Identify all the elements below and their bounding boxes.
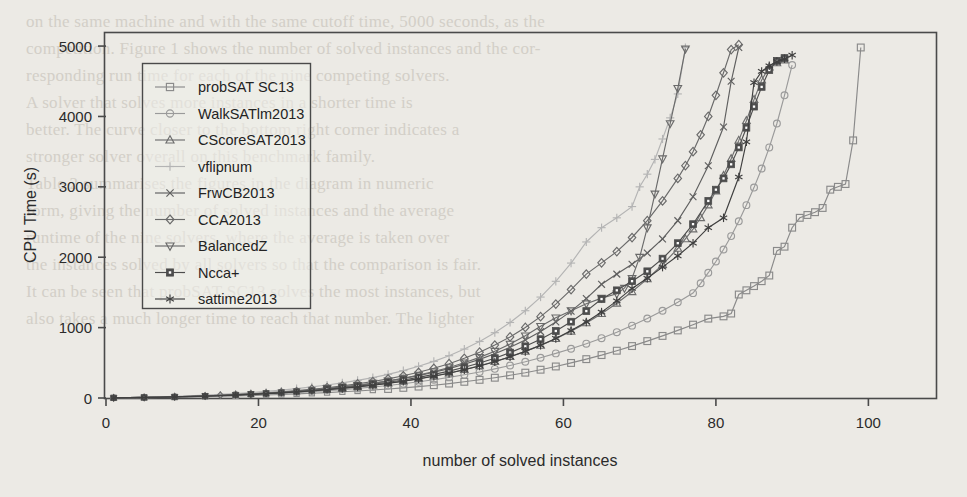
data-marker-square-filled <box>735 144 742 151</box>
x-tick-label: 80 <box>708 414 725 431</box>
data-marker-square-filled <box>720 175 727 182</box>
data-marker-square-filled <box>705 198 712 205</box>
data-marker-cross <box>629 261 636 268</box>
data-marker-plus <box>460 345 468 353</box>
data-marker-circle <box>789 62 796 69</box>
data-marker-plus <box>628 202 636 210</box>
data-marker-plus <box>636 183 644 191</box>
y-tick-label: 5000 <box>59 38 92 55</box>
y-tick-label: 4000 <box>59 108 92 125</box>
data-marker-square-filled <box>552 328 559 335</box>
legend-item-label: CCA2013 <box>198 212 261 228</box>
legend-item-label: probSAT SC13 <box>198 79 294 95</box>
x-tick-label: 40 <box>403 414 420 431</box>
data-marker-square-filled <box>728 161 735 168</box>
x-axis-label: number of solved instances <box>423 452 618 469</box>
legend-item-label: BalancedZ <box>198 238 267 254</box>
data-marker-square-filled <box>690 221 697 228</box>
data-marker-square-filled <box>583 308 590 315</box>
data-marker-cross <box>659 236 666 243</box>
data-marker-asterisk <box>743 138 750 147</box>
data-marker-asterisk <box>788 51 795 60</box>
chart-legend: probSAT SC13WalkSATlm2013CScoreSAT2013vf… <box>143 64 311 309</box>
legend-item-label: sattime2013 <box>198 291 277 307</box>
data-marker-square-filled <box>713 186 720 193</box>
data-marker-plus <box>414 362 422 370</box>
data-marker-asterisk <box>735 173 742 182</box>
legend-item-label: CScoreSAT2013 <box>198 132 306 148</box>
data-marker-square-filled <box>166 269 173 276</box>
x-tick-label: 60 <box>555 414 572 431</box>
legend-item-label: Ncca+ <box>198 265 240 281</box>
data-marker-cross <box>705 162 712 169</box>
data-marker-plus <box>658 135 666 143</box>
data-marker-square-filled <box>659 255 666 262</box>
data-marker-cross <box>674 217 681 224</box>
data-marker-square-filled <box>613 287 620 294</box>
data-marker-square-filled <box>629 278 636 285</box>
data-marker-cross <box>598 281 605 288</box>
x-tick-label: 0 <box>102 414 110 431</box>
data-marker-square-filled <box>644 268 651 275</box>
data-marker-square-filled <box>674 240 681 247</box>
y-tick-label: 0 <box>84 390 92 407</box>
data-marker-square-filled <box>568 318 575 325</box>
data-marker-plus <box>399 367 407 375</box>
y-axis-ticks: 010002000300040005000 <box>59 38 106 407</box>
legend-item-label: FrwCB2013 <box>198 185 275 201</box>
legend-item-label: WalkSATlm2013 <box>198 106 304 122</box>
data-marker-asterisk <box>720 214 727 223</box>
data-marker-cross <box>613 271 620 278</box>
x-axis-ticks: 020406080100 <box>102 398 881 431</box>
data-marker-square-filled <box>758 84 765 91</box>
data-marker-plus <box>475 337 483 345</box>
data-marker-asterisk <box>674 252 681 261</box>
y-tick-label: 3000 <box>59 178 92 195</box>
data-marker-square-filled <box>598 296 605 303</box>
data-marker-plus <box>651 155 659 163</box>
legend-item-label: vflipnum <box>198 159 252 175</box>
data-marker-plus <box>643 170 651 178</box>
cactus-plot-figure: 010002000300040005000 020406080100 CPU T… <box>0 0 967 497</box>
x-tick-label: 100 <box>856 414 881 431</box>
y-tick-label: 2000 <box>59 249 92 266</box>
data-marker-cross <box>644 250 651 257</box>
data-marker-plus <box>613 214 621 222</box>
data-marker-plus <box>674 90 682 98</box>
x-tick-label: 20 <box>250 414 267 431</box>
y-tick-label: 1000 <box>59 319 92 336</box>
data-marker-plus <box>491 329 499 337</box>
y-axis-label: CPU Time (s) <box>22 167 39 263</box>
data-marker-cross <box>690 193 697 200</box>
